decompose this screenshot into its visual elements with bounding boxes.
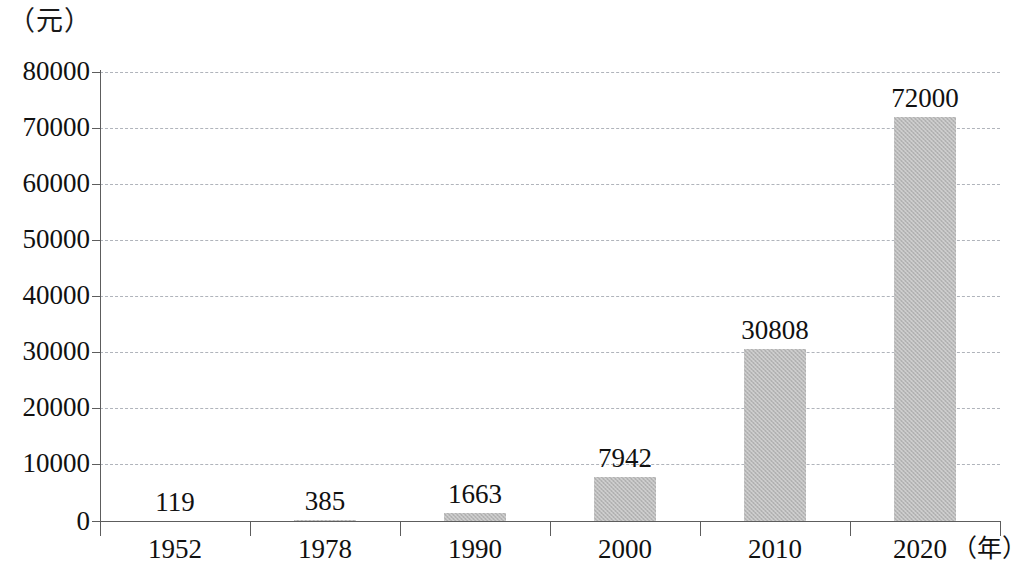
bar-2000 (594, 477, 656, 522)
gridline-60000 (100, 184, 1000, 185)
x-tick-label-1952: 1952 (100, 534, 250, 564)
y-axis-line (100, 70, 101, 524)
bar-2010 (744, 349, 806, 522)
gridline-20000 (100, 408, 1000, 409)
y-tick-label-60000: 60000 (0, 170, 90, 197)
y-tick-label-10000: 10000 (0, 450, 90, 477)
y-tick-label-20000: 20000 (0, 394, 90, 421)
bar-value-1990: 1663 (395, 479, 555, 509)
bar-chart: （元） 80000 70000 60000 50000 40000 30000 … (0, 0, 1034, 567)
y-axis-unit-label: （元） (8, 4, 92, 38)
gridline-30000 (100, 352, 1000, 353)
gridline-50000 (100, 240, 1000, 241)
y-tick-label-40000: 40000 (0, 282, 90, 309)
bar-value-2010: 30808 (695, 315, 855, 345)
y-tick-label-70000: 70000 (0, 114, 90, 141)
gridline-80000 (100, 72, 1000, 73)
bar-value-1952: 119 (95, 487, 255, 517)
x-tick-label-2000: 2000 (550, 534, 700, 564)
bar-value-1978: 385 (245, 486, 405, 516)
x-tick-label-1990: 1990 (400, 534, 550, 564)
gridline-70000 (100, 128, 1000, 129)
bar-2020 (894, 117, 956, 522)
bar-value-2000: 7942 (545, 443, 705, 473)
y-tick-label-0: 0 (0, 508, 90, 535)
bar-value-2020: 72000 (845, 83, 1005, 113)
x-tick-label-2010: 2010 (700, 534, 850, 564)
x-tick-label-1978: 1978 (250, 534, 400, 564)
x-axis-unit-label: （年） (952, 534, 1027, 564)
y-tick-label-80000: 80000 (0, 58, 90, 85)
gridline-40000 (100, 296, 1000, 297)
y-tick-label-30000: 30000 (0, 338, 90, 365)
y-tick-label-50000: 50000 (0, 226, 90, 253)
